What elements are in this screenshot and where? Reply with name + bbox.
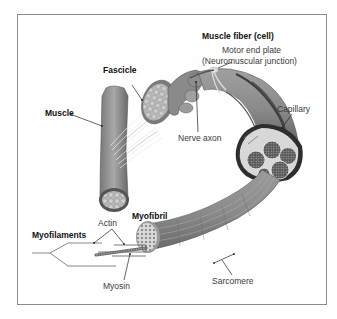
label-fascicle: Fascicle [103,66,137,75]
label-myofibril: Myofibril [132,212,167,221]
label-sarcomere: Sarcomere [212,277,254,286]
myofilaments-shape [32,243,146,266]
fascicle-shape [135,70,204,129]
label-actin: Actin [98,219,117,228]
label-neuromuscular-junction: (Neuromuscular junction) [202,57,297,66]
label-myosin: Myosin [103,282,130,291]
label-capillary: Capillary [277,105,310,114]
label-myofilaments: Myofilaments [32,231,86,240]
label-nerve-axon: Nerve axon [178,134,221,143]
muscle-illustration [0,0,337,319]
label-motor-end-plate: Motor end plate [222,46,281,55]
label-muscle: Muscle [45,109,74,118]
label-muscle-fiber: Muscle fiber (cell) [202,32,274,41]
